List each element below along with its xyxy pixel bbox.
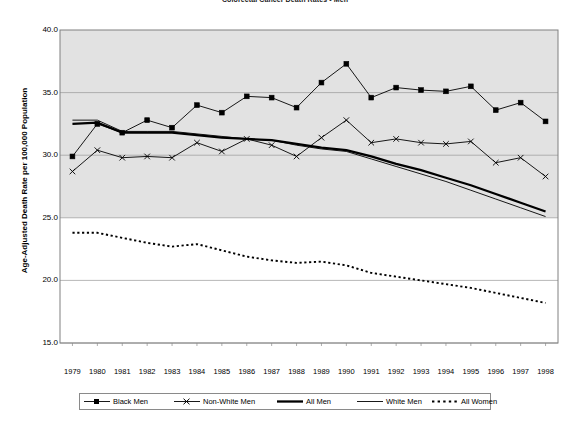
legend-label: All Men bbox=[306, 396, 331, 407]
x-tick-label: 1998 bbox=[529, 367, 563, 376]
legend-swatch-icon bbox=[174, 396, 200, 407]
legend-label: Non-White Men bbox=[203, 396, 255, 407]
legend-item-white-men[interactable]: White Men bbox=[357, 394, 422, 409]
legend-swatch-icon bbox=[357, 396, 383, 407]
legend-swatch-icon bbox=[432, 396, 458, 407]
legend-item-black-men[interactable]: Black Men bbox=[84, 394, 148, 409]
chart-container: Colorectal Cancer Death Rates - Men Age-… bbox=[0, 0, 570, 425]
legend-label: White Men bbox=[386, 396, 422, 407]
chart-legend: Black MenNon-White MenAll MenWhite MenAl… bbox=[79, 393, 491, 410]
legend-item-all-women[interactable]: All Women bbox=[432, 394, 497, 409]
x-axis-tick-labels: 1979198019811982198319841985198619871988… bbox=[0, 0, 570, 425]
legend-swatch-icon bbox=[277, 396, 303, 407]
legend-item-all-men[interactable]: All Men bbox=[277, 394, 331, 409]
legend-swatch-icon bbox=[84, 396, 110, 407]
legend-item-non-white-men[interactable]: Non-White Men bbox=[174, 394, 255, 409]
legend-label: All Women bbox=[461, 396, 497, 407]
legend-label: Black Men bbox=[113, 396, 148, 407]
